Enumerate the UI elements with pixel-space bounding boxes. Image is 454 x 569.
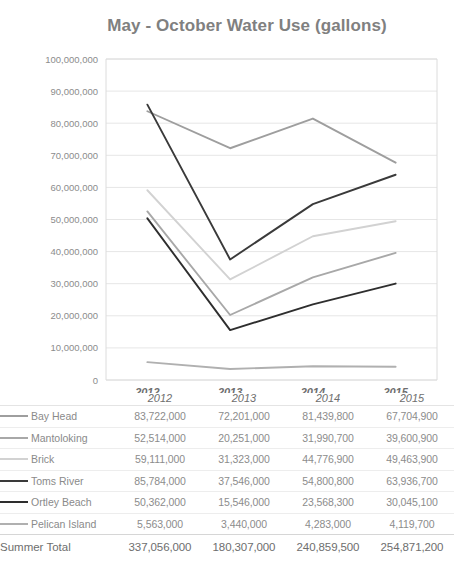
table-cell-value: 72,201,000 xyxy=(202,406,286,428)
table-header-year: 2014 xyxy=(286,390,370,406)
table-total-value: 337,056,000 xyxy=(118,535,202,560)
legend-label: Ortley Beach xyxy=(31,496,92,508)
chart-page: May - October Water Use (gallons) 010,00… xyxy=(0,0,454,569)
table-cell-value: 67,704,900 xyxy=(370,406,454,428)
table-body: Bay Head83,722,00072,201,00081,439,80067… xyxy=(0,406,454,560)
table-cell-value: 3,440,000 xyxy=(202,513,286,535)
page-title: May - October Water Use (gallons) xyxy=(0,16,454,36)
table-total-value: 240,859,500 xyxy=(286,535,370,560)
table-header-blank xyxy=(0,390,118,406)
legend-swatch-icon xyxy=(0,437,28,439)
y-axis-tick-label: 100,000,000 xyxy=(45,54,98,65)
y-axis-tick-label: 40,000,000 xyxy=(50,246,98,257)
table-cell-value: 23,568,300 xyxy=(286,492,370,514)
legend-item: Toms River xyxy=(0,470,118,492)
table-header-year: 2012 xyxy=(118,390,202,406)
table-cell-value: 50,362,000 xyxy=(118,492,202,514)
y-axis-tick-label: 10,000,000 xyxy=(50,342,98,353)
table-row: Brick59,111,00031,323,00044,776,90049,46… xyxy=(0,449,454,471)
table-cell-value: 54,800,800 xyxy=(286,470,370,492)
table-header-row: 2012 2013 2014 2015 xyxy=(0,390,454,406)
table-total-value: 180,307,000 xyxy=(202,535,286,560)
table-cell-value: 37,546,000 xyxy=(202,470,286,492)
y-axis-tick-label: 20,000,000 xyxy=(50,310,98,321)
table-row: Bay Head83,722,00072,201,00081,439,80067… xyxy=(0,406,454,428)
y-axis-tick-label: 70,000,000 xyxy=(50,150,98,161)
table-cell-value: 83,722,000 xyxy=(118,406,202,428)
legend-label: Brick xyxy=(31,453,54,465)
series-line-mantoloking xyxy=(147,211,395,315)
table-cell-value: 4,283,000 xyxy=(286,513,370,535)
table-cell-value: 15,546,000 xyxy=(202,492,286,514)
legend-label: Mantoloking xyxy=(31,432,88,444)
y-axis-tick-label: 80,000,000 xyxy=(50,118,98,129)
chart-plot-area: 010,000,00020,000,00030,000,00040,000,00… xyxy=(0,48,454,393)
table-cell-value: 81,439,800 xyxy=(286,406,370,428)
table-row: Mantoloking52,514,00020,251,00031,990,70… xyxy=(0,427,454,449)
table-cell-value: 20,251,000 xyxy=(202,427,286,449)
legend-label: Toms River xyxy=(31,475,84,487)
legend-swatch-icon xyxy=(0,415,28,417)
table-cell-value: 63,936,700 xyxy=(370,470,454,492)
legend-swatch-icon xyxy=(0,480,28,482)
table-cell-value: 52,514,000 xyxy=(118,427,202,449)
table-row: Toms River85,784,00037,546,00054,800,800… xyxy=(0,470,454,492)
table-cell-value: 85,784,000 xyxy=(118,470,202,492)
legend-item: Bay Head xyxy=(0,406,118,428)
legend-item: Mantoloking xyxy=(0,427,118,449)
y-axis-tick-label: 50,000,000 xyxy=(50,214,98,225)
table-cell-value: 44,776,900 xyxy=(286,449,370,471)
y-axis-tick-label: 0 xyxy=(93,375,98,386)
legend-item: Pelican Island xyxy=(0,513,118,535)
y-axis-tick-label: 90,000,000 xyxy=(50,86,98,97)
table-cell-value: 39,600,900 xyxy=(370,427,454,449)
legend-swatch-icon xyxy=(0,501,28,503)
y-axis-tick-label: 30,000,000 xyxy=(50,278,98,289)
series-line-pelican-island xyxy=(147,362,395,369)
table-header-year: 2013 xyxy=(202,390,286,406)
table-cell-value: 5,563,000 xyxy=(118,513,202,535)
table-cell-value: 31,990,700 xyxy=(286,427,370,449)
table-total-label: Summer Total xyxy=(0,535,118,560)
table-cell-value: 31,323,000 xyxy=(202,449,286,471)
table-cell-value: 49,463,900 xyxy=(370,449,454,471)
table-header-year: 2015 xyxy=(370,390,454,406)
table-row: Pelican Island5,563,0003,440,0004,283,00… xyxy=(0,513,454,535)
table-total-value: 254,871,200 xyxy=(370,535,454,560)
legend-label: Pelican Island xyxy=(31,518,96,530)
legend-item: Ortley Beach xyxy=(0,492,118,514)
data-table: 2012 2013 2014 2015 Bay Head83,722,00072… xyxy=(0,390,454,559)
table-cell-value: 4,119,700 xyxy=(370,513,454,535)
series-line-ortley-beach xyxy=(147,218,395,330)
legend-label: Bay Head xyxy=(31,410,77,422)
table-cell-value: 30,045,100 xyxy=(370,492,454,514)
legend-item: Brick xyxy=(0,449,118,471)
table-cell-value: 59,111,000 xyxy=(118,449,202,471)
y-axis-tick-label: 60,000,000 xyxy=(50,182,98,193)
legend-swatch-icon xyxy=(0,523,28,525)
table-row: Ortley Beach50,362,00015,546,00023,568,3… xyxy=(0,492,454,514)
series-line-brick xyxy=(147,190,395,279)
line-chart-svg: 010,000,00020,000,00030,000,00040,000,00… xyxy=(0,48,454,393)
legend-swatch-icon xyxy=(0,458,28,460)
table-total-row: Summer Total337,056,000180,307,000240,85… xyxy=(0,535,454,560)
